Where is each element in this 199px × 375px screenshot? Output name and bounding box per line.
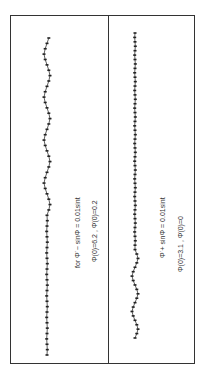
left-curve-point <box>44 188 47 190</box>
right-curve-point <box>131 275 134 277</box>
left-equation-label: for Φ̈ − sinΦ = 0.01sint <box>74 197 81 268</box>
right-curve-point <box>134 63 137 65</box>
left-curve-point <box>46 129 49 131</box>
left-curve-point <box>43 139 46 141</box>
right-curve-point <box>133 125 136 127</box>
right-curve-point <box>133 72 136 74</box>
right-curve-point <box>134 41 137 43</box>
left-curve-point <box>46 86 49 88</box>
right-curve-point <box>131 311 134 313</box>
left-curve-point <box>46 290 49 292</box>
right-curve-point <box>134 147 137 149</box>
right-equation-label: Φ̈ + sinΦ = 0.01sint <box>159 197 166 258</box>
left-curve-point <box>49 118 52 120</box>
right-curve-point <box>134 209 137 211</box>
left-curve-point <box>45 295 48 297</box>
right-curve-point <box>135 324 138 326</box>
right-curve-point <box>133 178 136 180</box>
right-curve-point <box>133 196 136 198</box>
right-curve-point <box>134 112 137 114</box>
right-curve-point <box>134 134 137 136</box>
left-curve-point <box>43 53 46 55</box>
left-curve-point <box>46 43 49 45</box>
right-curve-point <box>137 328 140 330</box>
right-curve-point <box>134 156 137 158</box>
right-curve-point <box>134 284 137 286</box>
right-curve-point <box>134 200 137 202</box>
left-curve-point <box>46 150 49 152</box>
left-curve-point <box>46 257 49 259</box>
left-curve-point <box>46 284 49 286</box>
right-curve-point <box>132 271 135 273</box>
left-curve-point <box>46 279 49 281</box>
left-curve-point <box>47 69 50 71</box>
left-curve-point <box>46 247 49 249</box>
right-curve-point <box>134 76 137 78</box>
right-curve-point <box>134 249 137 251</box>
left-curve-point <box>46 354 49 356</box>
right-curve-line <box>132 33 138 338</box>
right-curve-point <box>134 99 137 101</box>
right-curve-point <box>132 306 135 308</box>
right-curve-point <box>134 337 137 339</box>
right-curve-point <box>134 191 137 193</box>
right-curve-point <box>135 333 138 335</box>
right-curve-point <box>133 213 136 215</box>
left-curve-point <box>44 59 47 61</box>
right-curve-point <box>134 32 137 34</box>
right-curve-point <box>132 280 135 282</box>
right-curve-point <box>134 116 137 118</box>
right-curve-point <box>134 138 137 140</box>
left-curve-point <box>47 112 50 114</box>
left-curve-point <box>46 333 49 335</box>
right-curve-point <box>134 68 137 70</box>
curve-right <box>131 32 140 339</box>
right-curve-point <box>134 129 137 131</box>
left-curve-point <box>49 161 52 163</box>
right-curve-point <box>134 302 137 304</box>
right-curve-point <box>134 103 137 105</box>
right-curve-point <box>134 165 137 167</box>
left-curve-point <box>46 300 49 302</box>
left-curve-point <box>46 263 49 265</box>
right-curve-point <box>134 152 137 154</box>
left-curve-point <box>45 317 48 319</box>
right-curve-point <box>133 37 136 39</box>
right-curve-point <box>135 289 138 291</box>
left-curve-point <box>47 155 50 157</box>
right-curve-point <box>134 85 137 87</box>
left-curve-point <box>49 75 52 77</box>
left-curve-point <box>46 193 49 195</box>
left-curve-point <box>46 311 49 313</box>
left-curve-point <box>47 198 50 200</box>
left-curve-point <box>47 209 50 211</box>
right-curve-point <box>137 293 140 295</box>
right-curve-point <box>134 59 137 61</box>
plot-canvas <box>0 0 199 375</box>
right-curve-point <box>134 81 137 83</box>
left-curve-point <box>46 236 49 238</box>
left-curve-point <box>45 274 48 276</box>
left-curve-point <box>44 48 47 50</box>
left-curve-point <box>46 107 49 109</box>
right-curve-point <box>134 236 137 238</box>
right-curve-point <box>134 227 137 229</box>
left-curve-point <box>45 231 48 233</box>
left-curve-point <box>45 338 48 340</box>
left-curve-point <box>46 172 49 174</box>
left-curve-point <box>44 145 47 147</box>
left-curve-point <box>47 123 50 125</box>
left-curve-point <box>46 322 49 324</box>
right-curve-point <box>135 297 138 299</box>
right-curve-point <box>134 45 137 47</box>
left-curve-point <box>46 215 49 217</box>
left-curve-point <box>46 343 49 345</box>
left-curve-point <box>46 349 49 351</box>
right-curve-point <box>133 160 136 162</box>
left-curve-point <box>47 166 50 168</box>
left-initial-conditions: Φ(0)=6.2 , Φ̇(0)=0.2 <box>91 200 98 262</box>
right-curve-point <box>132 315 135 317</box>
left-curve-point <box>46 241 49 243</box>
left-curve-point <box>44 91 47 93</box>
left-curve-point <box>44 134 47 136</box>
